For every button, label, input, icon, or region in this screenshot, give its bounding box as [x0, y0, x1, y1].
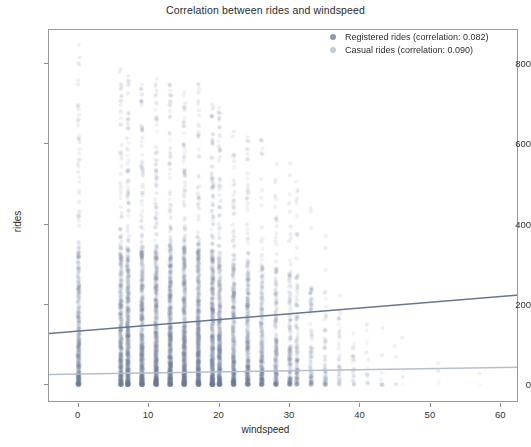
x-tick-label: 40 [354, 409, 365, 420]
scatter-canvas [49, 30, 518, 402]
y-tick-mark [44, 384, 48, 385]
x-tick-label: 60 [495, 409, 506, 420]
chart-figure: Correlation between rides and windspeed … [0, 0, 531, 447]
x-tick-mark [219, 403, 220, 407]
x-tick-mark [289, 403, 290, 407]
chart-legend: Registered rides (correlation: 0.082)Cas… [330, 32, 510, 55]
y-tick-mark [44, 224, 48, 225]
y-tick-mark [44, 63, 48, 64]
chart-title: Correlation between rides and windspeed [0, 4, 531, 16]
x-tick-mark [430, 403, 431, 407]
legend-label: Registered rides (correlation: 0.082) [345, 32, 489, 42]
x-tick-mark [78, 403, 79, 407]
y-tick-label: 0 [491, 378, 531, 389]
legend-label: Casual rides (correlation: 0.090) [345, 45, 473, 55]
y-tick-label: 400 [491, 218, 531, 229]
y-tick-mark [44, 143, 48, 144]
x-tick-label: 20 [213, 409, 224, 420]
x-axis-label: windspeed [0, 424, 531, 435]
y-axis-label: rides [12, 192, 23, 252]
legend-item: Registered rides (correlation: 0.082) [330, 32, 510, 42]
y-tick-label: 800 [491, 58, 531, 69]
x-tick-mark [148, 403, 149, 407]
x-tick-label: 30 [284, 409, 295, 420]
x-tick-label: 50 [425, 409, 436, 420]
y-tick-label: 600 [491, 138, 531, 149]
legend-item: Casual rides (correlation: 0.090) [330, 45, 510, 55]
y-tick-label: 200 [491, 298, 531, 309]
legend-marker-icon [330, 34, 336, 40]
x-tick-label: 10 [143, 409, 154, 420]
x-tick-label: 0 [75, 409, 80, 420]
legend-marker-icon [330, 47, 336, 53]
x-tick-mark [500, 403, 501, 407]
x-tick-mark [359, 403, 360, 407]
plot-area [48, 29, 518, 402]
y-tick-mark [44, 304, 48, 305]
